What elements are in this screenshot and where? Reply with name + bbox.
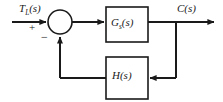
block-diagram-canvas: TL(s) + − Gs(s) C(s) H(s) <box>0 0 223 102</box>
output-signal-label: C(s) <box>177 3 196 14</box>
forward-block-argument: (s) <box>122 16 134 28</box>
summing-plus-sign: + <box>29 22 35 33</box>
input-signal-label: TL(s) <box>19 3 41 17</box>
feedback-block-argument: (s) <box>120 69 132 81</box>
feedback-block-label: H(s) <box>112 70 132 81</box>
forward-block-label: Gs(s) <box>111 17 133 31</box>
input-signal-argument: (s) <box>29 2 41 14</box>
feedback-block-base: H <box>112 69 120 81</box>
forward-block-base: G <box>111 16 119 28</box>
summing-minus-sign: − <box>41 31 48 43</box>
summing-junction-circle <box>48 10 72 34</box>
output-signal-argument: (s) <box>184 2 196 14</box>
